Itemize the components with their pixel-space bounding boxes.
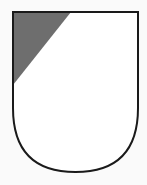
heraldic-shield: Coat of arms shield White (argent) shiel… — [0, 0, 147, 185]
image-canvas: Coat of arms shield White (argent) shiel… — [0, 0, 147, 185]
